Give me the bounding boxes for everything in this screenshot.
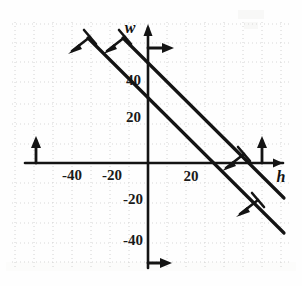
coordinate-plane-svg: w h -40 -20 20 40 20 -20 -40 <box>0 0 302 286</box>
y-tick-label-neg20: -20 <box>123 191 143 207</box>
x-tick-label-neg20: -20 <box>102 167 122 183</box>
y-tick-label-neg40: -40 <box>123 232 143 248</box>
y-axis-label: w <box>125 19 136 36</box>
x-tick-label-neg40: -40 <box>62 167 82 183</box>
x-axis-label: h <box>277 168 286 185</box>
graph-figure: w h -40 -20 20 40 20 -20 -40 <box>0 0 302 286</box>
x-tick-label-pos20: 20 <box>184 168 199 184</box>
y-tick-label-pos20: 20 <box>126 109 141 125</box>
